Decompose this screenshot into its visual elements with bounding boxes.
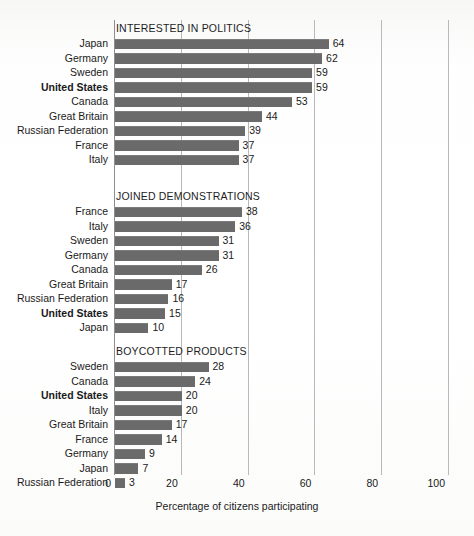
- chart-row: Japan7: [0, 462, 474, 477]
- bar-value-label: 44: [266, 110, 278, 122]
- chart-row: Great Britain17: [0, 418, 474, 433]
- x-tick-label-60: 60: [300, 477, 312, 489]
- category-label: Japan: [0, 37, 108, 49]
- bar-value-label: 37: [243, 139, 255, 151]
- x-tick-label-80: 80: [367, 477, 379, 489]
- bar: [115, 140, 239, 151]
- bar-value-label: 62: [326, 52, 338, 64]
- bar: [115, 279, 172, 290]
- x-axis-title: Percentage of citizens participating: [0, 500, 474, 512]
- chart-row: Germany9: [0, 447, 474, 462]
- chart-row: Japan10: [0, 321, 474, 336]
- category-label: Canada: [0, 375, 108, 387]
- category-label: Great Britain: [0, 278, 108, 290]
- bar-value-label: 53: [296, 95, 308, 107]
- chart-row: Russian Federation16: [0, 292, 474, 307]
- bar-value-label: 10: [152, 321, 164, 333]
- chart-row: Italy37: [0, 153, 474, 168]
- chart-row: Germany62: [0, 52, 474, 67]
- category-label: Germany: [0, 447, 108, 459]
- bar: [115, 39, 329, 50]
- bar-value-label: 31: [223, 249, 235, 261]
- chart-page: INTERESTED IN POLITICSJapan64Germany62Sw…: [0, 0, 474, 536]
- bar-value-label: 17: [176, 278, 188, 290]
- category-label: Germany: [0, 52, 108, 64]
- bar: [115, 308, 165, 319]
- chart-row: Russian Federation39: [0, 124, 474, 139]
- bar: [115, 82, 312, 93]
- x-tick-label-40: 40: [233, 477, 245, 489]
- bar-value-label: 31: [223, 234, 235, 246]
- panel-title-2: JOINED DEMONSTRATIONS: [116, 190, 260, 202]
- chart-row: Canada24: [0, 375, 474, 390]
- panel-title-3: BOYCOTTED PRODUCTS: [116, 345, 247, 357]
- chart-row: United States20: [0, 389, 474, 404]
- chart-row: Italy20: [0, 404, 474, 419]
- bar: [115, 53, 322, 64]
- chart-row: Canada26: [0, 263, 474, 278]
- x-tick-label-20: 20: [166, 477, 178, 489]
- bar-value-label: 14: [166, 433, 178, 445]
- bar-value-label: 24: [199, 375, 211, 387]
- category-label: France: [0, 205, 108, 217]
- bar: [115, 68, 312, 79]
- chart-row: Italy36: [0, 220, 474, 235]
- bar-value-label: 59: [316, 81, 328, 93]
- bar-value-label: 28: [213, 360, 225, 372]
- chart-row: United States59: [0, 81, 474, 96]
- chart-row: United States15: [0, 307, 474, 322]
- bar-value-label: 20: [186, 389, 198, 401]
- category-label: France: [0, 139, 108, 151]
- bar-value-label: 59: [316, 66, 328, 78]
- bar-value-label: 38: [246, 205, 258, 217]
- chart-row: Great Britain44: [0, 110, 474, 125]
- chart-row: France14: [0, 433, 474, 448]
- bar: [115, 265, 202, 276]
- bar: [115, 294, 168, 305]
- category-label: United States: [0, 307, 108, 319]
- bar-value-label: 17: [176, 418, 188, 430]
- category-label: United States: [0, 389, 108, 401]
- category-label: Great Britain: [0, 418, 108, 430]
- bar: [115, 155, 239, 166]
- bar: [115, 126, 245, 137]
- category-label: Russian Federation: [0, 124, 108, 136]
- category-label: Canada: [0, 95, 108, 107]
- chart-row: Germany31: [0, 249, 474, 264]
- chart-row: France38: [0, 205, 474, 220]
- bar: [115, 405, 182, 416]
- chart-row: Sweden31: [0, 234, 474, 249]
- bar: [115, 391, 182, 402]
- x-tick-label-0: 0: [105, 477, 111, 489]
- bar: [115, 207, 242, 218]
- bar-value-label: 20: [186, 404, 198, 416]
- bar-value-label: 16: [172, 292, 184, 304]
- chart-row: Great Britain17: [0, 278, 474, 293]
- bar: [115, 323, 148, 334]
- chart-row: Canada53: [0, 95, 474, 110]
- category-label: Russian Federation: [0, 292, 108, 304]
- x-axis-ticks: 020406080100: [0, 477, 474, 493]
- category-label: Italy: [0, 404, 108, 416]
- bar-value-label: 26: [206, 263, 218, 275]
- category-label: Sweden: [0, 66, 108, 78]
- bar: [115, 362, 209, 373]
- category-label: Japan: [0, 321, 108, 333]
- chart-row: Sweden28: [0, 360, 474, 375]
- x-tick-label-100: 100: [427, 477, 445, 489]
- category-label: Italy: [0, 153, 108, 165]
- chart-row: Sweden59: [0, 66, 474, 81]
- bar: [115, 420, 172, 431]
- bar-value-label: 15: [169, 307, 181, 319]
- category-label: France: [0, 433, 108, 445]
- category-label: Canada: [0, 263, 108, 275]
- bar: [115, 463, 138, 474]
- category-label: United States: [0, 81, 108, 93]
- chart-row: France37: [0, 139, 474, 154]
- bar: [115, 236, 219, 247]
- bar: [115, 449, 145, 460]
- bar: [115, 97, 292, 108]
- panel-title-1: INTERESTED IN POLITICS: [116, 22, 251, 34]
- bar: [115, 221, 235, 232]
- bar: [115, 250, 219, 261]
